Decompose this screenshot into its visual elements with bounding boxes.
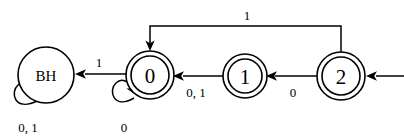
state-0-label: 0 <box>145 64 156 88</box>
state-2-label: 2 <box>336 65 347 89</box>
state-0[interactable]: 0 <box>126 51 174 99</box>
transition-label-feedback: 1 <box>244 8 251 23</box>
transition-s2-to-s0-feedback: 1 <box>145 8 341 53</box>
state-1[interactable]: 1 <box>223 54 267 98</box>
transition-label-s1-s0: 0, 1 <box>186 85 206 100</box>
state-1-label: 1 <box>240 65 251 89</box>
state-bh-label: BH <box>36 68 57 84</box>
transition-label-s0-bh: 1 <box>96 55 103 70</box>
transition-s0-to-bh: 1 <box>75 55 126 79</box>
start-arrow-head <box>366 71 377 81</box>
transition-label-s2-s1: 0 <box>290 85 297 100</box>
transition-s0-bh-arrowhead <box>75 69 86 79</box>
state-2[interactable]: 2 <box>317 52 365 100</box>
state-machine-diagram: 1 0 0, 1 1 0, 1 0 BH <box>0 0 404 140</box>
transition-s1-to-s0: 0, 1 <box>173 71 223 99</box>
transition-label-bh-loop: 0, 1 <box>18 120 38 135</box>
state-bh[interactable]: BH <box>18 47 74 103</box>
transition-label-s0-loop: 0 <box>121 120 128 135</box>
transition-feedback-path <box>150 26 341 52</box>
start-arrow <box>366 71 404 81</box>
transition-s2-to-s1: 0 <box>266 71 317 99</box>
